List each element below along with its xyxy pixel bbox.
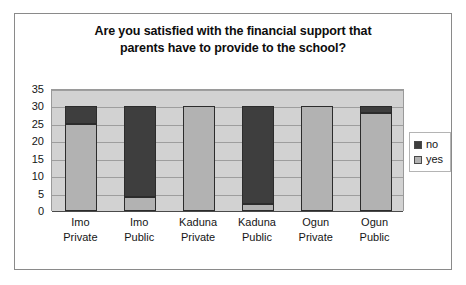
x-axis-label: OgunPrivate: [286, 215, 345, 244]
y-axis-tick-30: 30: [32, 101, 44, 112]
chart-container: Are you satisfied with the financial sup…: [14, 13, 452, 270]
x-axis-label-line: Private: [51, 230, 110, 245]
x-axis-label: ImoPublic: [110, 215, 169, 244]
x-axis-label-line: Private: [169, 230, 228, 245]
bar-segment-no[interactable]: [124, 106, 156, 197]
gridline-20: [52, 142, 403, 143]
x-axis-label-line: Imo: [110, 215, 169, 230]
y-axis-tick-0: 0: [38, 206, 44, 217]
gridline-25: [52, 125, 403, 126]
gridline-15: [52, 160, 403, 161]
legend-swatch-yes: [414, 156, 422, 164]
gridline-35: [52, 90, 403, 91]
x-axis-label-line: Public: [110, 230, 169, 245]
legend-label-no: no: [426, 139, 438, 150]
bar-group[interactable]: [242, 89, 274, 211]
plot-inner: [52, 90, 403, 211]
legend-swatch-no: [414, 141, 422, 149]
x-axis-label-line: Imo: [51, 215, 110, 230]
chart-title: Are you satisfied with the financial sup…: [15, 23, 451, 57]
x-axis-label-line: Private: [286, 230, 345, 245]
x-axis-label-line: Public: [228, 230, 287, 245]
bar-segment-no[interactable]: [242, 106, 274, 204]
bar-segment-yes[interactable]: [242, 204, 274, 211]
y-axis-tick-5: 5: [38, 188, 44, 199]
x-axis-label: KadunaPublic: [228, 215, 287, 244]
x-axis-label-line: Public: [345, 230, 404, 245]
bar-segment-no[interactable]: [360, 106, 392, 113]
y-axis-tick-15: 15: [32, 153, 44, 164]
y-axis-tick-35: 35: [32, 84, 44, 95]
x-axis-label-line: Ogun: [345, 215, 404, 230]
chart-title-line-2: parents have to provide to the school?: [15, 40, 451, 57]
gridline-0: [52, 211, 403, 212]
bar-group[interactable]: [360, 89, 392, 211]
x-axis-label: OgunPublic: [345, 215, 404, 244]
legend-item-no[interactable]: no: [414, 137, 447, 152]
x-axis: ImoPrivateImoPublicKadunaPrivateKadunaPu…: [51, 215, 404, 259]
x-axis-label-line: Kaduna: [228, 215, 287, 230]
bar-group[interactable]: [124, 89, 156, 211]
y-axis-tick-10: 10: [32, 171, 44, 182]
y-axis-tick-20: 20: [32, 136, 44, 147]
legend-item-yes[interactable]: yes: [414, 152, 447, 167]
gridline-10: [52, 177, 403, 178]
x-axis-label: KadunaPrivate: [169, 215, 228, 244]
gridline-5: [52, 195, 403, 196]
bar-segment-yes[interactable]: [183, 106, 215, 211]
x-axis-label-line: Ogun: [286, 215, 345, 230]
bar-segment-yes[interactable]: [301, 106, 333, 211]
bar-segment-yes[interactable]: [360, 113, 392, 211]
y-axis: 05101520253035: [15, 89, 48, 211]
y-axis-tick-25: 25: [32, 118, 44, 129]
bar-group[interactable]: [183, 89, 215, 211]
bar-group[interactable]: [301, 89, 333, 211]
plot-area: [51, 89, 404, 211]
legend-label-yes: yes: [426, 154, 443, 165]
bar-segment-yes[interactable]: [124, 197, 156, 211]
bar-group[interactable]: [65, 89, 97, 211]
chart-title-line-1: Are you satisfied with the financial sup…: [15, 23, 451, 40]
x-axis-label-line: Kaduna: [169, 215, 228, 230]
x-axis-label: ImoPrivate: [51, 215, 110, 244]
bar-segment-yes[interactable]: [65, 124, 97, 211]
gridline-30: [52, 107, 403, 108]
chart-legend: noyes: [409, 132, 451, 172]
bar-segment-no[interactable]: [65, 106, 97, 123]
